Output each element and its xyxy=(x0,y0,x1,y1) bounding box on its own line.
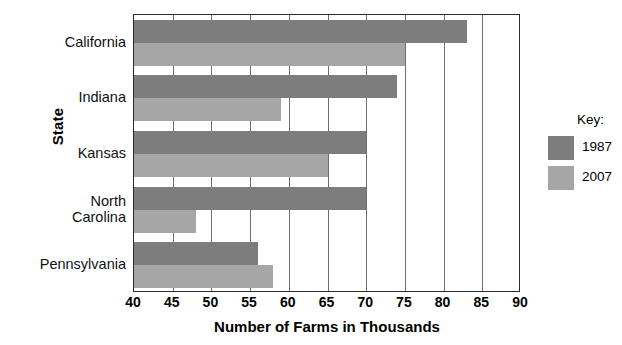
x-tick-label-85: 85 xyxy=(461,294,501,310)
bar-california-1987 xyxy=(134,20,467,43)
legend-title: Key: xyxy=(528,112,604,127)
category-label-line: Pennsylvania xyxy=(18,256,126,272)
x-axis-title: Number of Farms in Thousands xyxy=(120,318,534,335)
x-tick-label-70: 70 xyxy=(345,294,385,310)
bar-pennsylvania-1987 xyxy=(134,242,258,265)
x-tick-label-55: 55 xyxy=(229,294,269,310)
bar-group xyxy=(134,15,519,291)
bar-pennsylvania-2007 xyxy=(134,265,273,288)
category-label-group: CaliforniaIndianaKansasNorthCarolinaPenn… xyxy=(18,14,126,292)
legend-entry-1987: 1987 xyxy=(548,134,622,160)
bar-california-2007 xyxy=(134,43,405,66)
x-tick-label-75: 75 xyxy=(384,294,424,310)
category-label-kansas: Kansas xyxy=(18,145,126,161)
legend-swatch-1987 xyxy=(548,136,574,160)
legend: Key: 1987 2007 xyxy=(528,112,618,198)
category-label-indiana: Indiana xyxy=(18,89,126,105)
bar-north-carolina-1987 xyxy=(134,187,366,210)
legend-swatch-2007 xyxy=(548,166,574,190)
x-tick-label-40: 40 xyxy=(113,294,153,310)
bar-north-carolina-2007 xyxy=(134,210,196,233)
x-tick-label-60: 60 xyxy=(268,294,308,310)
category-label-line: North xyxy=(18,193,126,209)
category-label-pennsylvania: Pennsylvania xyxy=(18,256,126,272)
category-label-north-carolina: NorthCarolina xyxy=(18,193,126,225)
x-tick-label-50: 50 xyxy=(190,294,230,310)
bar-kansas-2007 xyxy=(134,154,328,177)
legend-entry-2007: 2007 xyxy=(548,164,622,190)
bar-kansas-1987 xyxy=(134,131,366,154)
x-tick-label-80: 80 xyxy=(423,294,463,310)
bar-indiana-2007 xyxy=(134,98,281,121)
bar-chart: State CaliforniaIndianaKansasNorthCaroli… xyxy=(0,0,622,345)
category-label-line: Indiana xyxy=(18,89,126,105)
category-label-line: California xyxy=(18,34,126,50)
legend-label-2007: 2007 xyxy=(582,169,612,184)
category-label-line: Kansas xyxy=(18,145,126,161)
category-label-california: California xyxy=(18,34,126,50)
plot-area xyxy=(133,14,520,292)
bar-indiana-1987 xyxy=(134,75,397,98)
x-tick-label-90: 90 xyxy=(500,294,540,310)
x-axis-tick-group: 4045505560657075808590 xyxy=(133,292,520,314)
x-tick-label-45: 45 xyxy=(152,294,192,310)
legend-label-1987: 1987 xyxy=(582,139,612,154)
x-tick-label-65: 65 xyxy=(307,294,347,310)
category-label-line: Carolina xyxy=(18,209,126,225)
